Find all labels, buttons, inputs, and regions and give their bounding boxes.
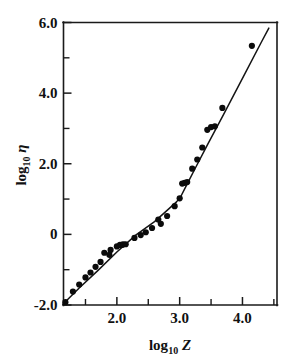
data-point [184, 179, 190, 185]
data-point [87, 269, 93, 275]
y-tick-label: -2.0 [34, 297, 58, 313]
data-point [97, 259, 103, 265]
y-axis-title-subscript: 10 [21, 156, 32, 166]
x-axis-title-base: log [149, 337, 169, 353]
data-point [189, 166, 195, 172]
data-point [249, 43, 255, 49]
data-point [149, 225, 155, 231]
data-point [212, 123, 218, 129]
y-tick-label: 2.0 [39, 156, 58, 172]
x-tick-label: 3.0 [170, 310, 189, 326]
data-point [172, 203, 178, 209]
data-point [82, 274, 88, 280]
x-tick-label: 4.0 [233, 310, 252, 326]
data-point [164, 213, 170, 219]
x-axis-title-variable: Z [178, 337, 191, 353]
figure-container: -2.002.04.06.0 2.03.04.0 log10 Z log10 η [0, 0, 292, 363]
y-tick-label: 6.0 [39, 15, 58, 31]
data-point [194, 156, 200, 162]
viscosity-vs-chain-length-plot: -2.002.04.06.0 2.03.04.0 log10 Z log10 η [0, 0, 292, 363]
data-point [76, 281, 82, 287]
x-tick-label: 2.0 [108, 310, 127, 326]
y-tick-label: 4.0 [39, 85, 58, 101]
data-point [108, 247, 114, 253]
data-point [143, 229, 149, 235]
y-axis-title-variable: η [13, 144, 29, 156]
data-point [92, 264, 98, 270]
data-point [158, 221, 164, 227]
y-axis-title-base: log [13, 166, 29, 186]
y-tick-label: 0 [50, 226, 58, 242]
data-point [199, 144, 205, 150]
data-point [123, 241, 129, 247]
data-point [62, 299, 68, 305]
data-point [70, 288, 76, 294]
data-point [177, 195, 183, 201]
data-point [219, 105, 225, 111]
data-point [131, 235, 137, 241]
x-axis-title-subscript: 10 [168, 345, 178, 356]
